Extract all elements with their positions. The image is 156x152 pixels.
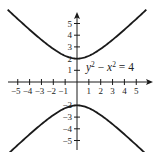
- x-tick-label: −2: [47, 86, 57, 96]
- y-tick-label: 5: [68, 19, 73, 29]
- y-tick-label: −3: [62, 112, 72, 122]
- y-tick-label: 3: [68, 42, 73, 52]
- x-tick-label: −1: [58, 86, 68, 96]
- x-tick-label: 1: [87, 86, 92, 96]
- x-tick-label: −3: [35, 86, 45, 96]
- y-tick-label: 4: [68, 30, 73, 40]
- x-tick-label: 5: [134, 86, 139, 96]
- x-tick-label: 2: [98, 86, 103, 96]
- hyperbola-plot: −5−4−3−2−112345−5−4−3−212345 y2 − x2 = 4: [0, 0, 156, 152]
- y-tick-label: 1: [68, 65, 73, 75]
- y-tick-label: −5: [62, 136, 72, 146]
- x-tick-label: −4: [23, 86, 33, 96]
- x-tick-label: 3: [110, 86, 115, 96]
- equation-label: y2 − x2 = 4: [85, 60, 134, 75]
- x-tick-label: −5: [11, 86, 21, 96]
- x-tick-label: 4: [122, 86, 127, 96]
- y-tick-label: −4: [62, 124, 72, 134]
